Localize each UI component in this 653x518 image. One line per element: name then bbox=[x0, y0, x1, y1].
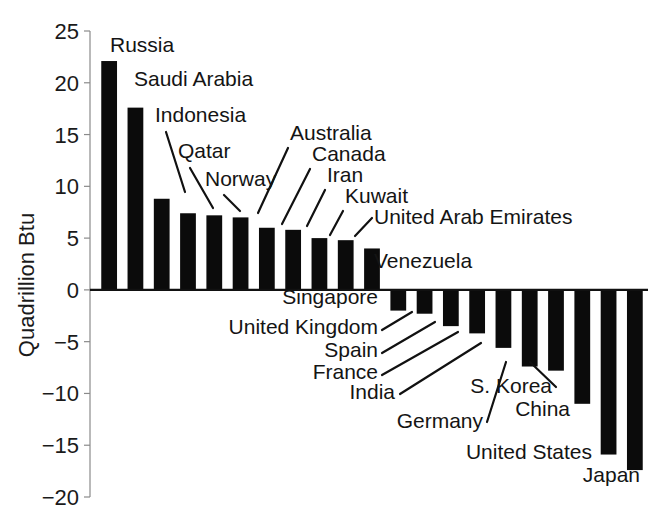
bar-indonesia bbox=[154, 199, 170, 290]
series-label-spain: Spain bbox=[324, 338, 378, 361]
bar-germany bbox=[522, 290, 538, 367]
bar-united-arab-emirates bbox=[338, 240, 354, 290]
series-label-germany: Germany bbox=[397, 409, 484, 432]
bar-saudi-arabia bbox=[128, 108, 144, 290]
series-label-canada: Canada bbox=[312, 142, 386, 165]
y-axis-tick-label: 10 bbox=[55, 174, 79, 199]
y-axis-tick-label: −5 bbox=[54, 330, 79, 355]
bar-united-kingdom bbox=[417, 290, 433, 314]
series-label-singapore: Singapore bbox=[282, 285, 378, 308]
series-label-venezuela: Venezuela bbox=[374, 249, 472, 272]
series-label-norway: Norway bbox=[205, 167, 277, 190]
y-axis-tick-label: 0 bbox=[67, 278, 79, 303]
series-label-australia: Australia bbox=[290, 121, 372, 144]
bar-japan bbox=[627, 290, 643, 470]
series-label-saudi-arabia: Saudi Arabia bbox=[134, 67, 253, 90]
y-axis-tick-label: 15 bbox=[55, 123, 79, 148]
bar-chart: 2520151050−5−10−15−20 RussiaSaudi Arabia… bbox=[0, 0, 653, 518]
series-label-russia: Russia bbox=[110, 33, 175, 56]
y-axis-title: Quadrillion Btu bbox=[14, 213, 39, 357]
series-label-iran: Iran bbox=[327, 163, 363, 186]
series-label-united-kingdom: United Kingdom bbox=[229, 315, 378, 338]
bar-s-korea bbox=[548, 290, 564, 371]
series-label-india: India bbox=[349, 380, 395, 403]
series-label-indonesia: Indonesia bbox=[155, 103, 246, 126]
series-label-united-arab-emirates: United Arab Emirates bbox=[374, 205, 572, 228]
bar-france bbox=[469, 290, 485, 333]
series-label-qatar: Qatar bbox=[178, 139, 231, 162]
bar-australia bbox=[233, 217, 249, 289]
series-label-kuwait: Kuwait bbox=[345, 184, 408, 207]
y-axis-tick-label: 25 bbox=[55, 19, 79, 44]
bar-russia bbox=[101, 61, 117, 290]
bar-singapore bbox=[390, 290, 406, 311]
series-label-china: China bbox=[515, 397, 570, 420]
bar-united-states bbox=[601, 290, 617, 455]
bar-norway bbox=[206, 215, 222, 290]
bar-canada bbox=[259, 228, 275, 290]
chart-canvas: 2520151050−5−10−15−20 RussiaSaudi Arabia… bbox=[0, 0, 653, 518]
series-label-united-states: United States bbox=[466, 440, 592, 463]
bar-spain bbox=[443, 290, 459, 326]
y-axis-tick-label: 5 bbox=[67, 226, 79, 251]
y-axis-tick-label: −15 bbox=[42, 433, 79, 458]
series-label-japan: Japan bbox=[583, 463, 640, 486]
bar-iran bbox=[285, 230, 301, 290]
y-axis-tick-label: −20 bbox=[42, 485, 79, 510]
y-axis-tick-label: −10 bbox=[42, 381, 79, 406]
bar-qatar bbox=[180, 213, 196, 290]
bar-kuwait bbox=[312, 238, 328, 290]
bar-india bbox=[496, 290, 512, 348]
y-axis-tick-label: 20 bbox=[55, 71, 79, 96]
series-label-s-korea: S. Korea bbox=[470, 374, 552, 397]
bar-china bbox=[574, 290, 590, 404]
